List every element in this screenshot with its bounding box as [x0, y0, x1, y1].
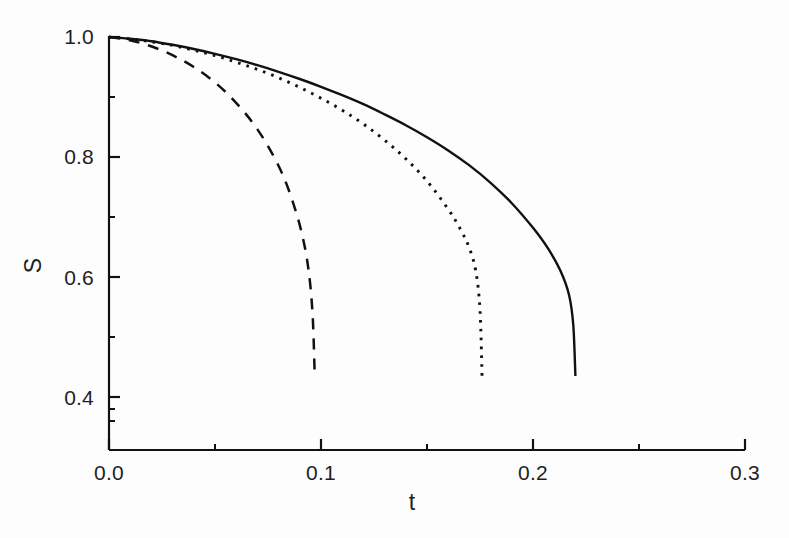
axes-group [109, 36, 745, 450]
x-tick-label-0.3: 0.3 [715, 461, 775, 485]
plot-canvas [0, 0, 789, 538]
x-tick-label-0.2: 0.2 [503, 461, 563, 485]
x-tick-label-0.0: 0.0 [79, 461, 139, 485]
curve-solid [109, 37, 575, 376]
y-tick-label-0.8: 0.8 [34, 145, 94, 169]
y-tick-label-1.0: 1.0 [34, 25, 94, 49]
y-tick-label-0.4: 0.4 [34, 386, 94, 410]
x-axis-title: t [397, 489, 427, 516]
x-tick-label-0.1: 0.1 [291, 461, 351, 485]
chart-figure: 1.0 0.8 0.6 0.4 0.0 0.1 0.2 0.3 S t [0, 0, 789, 538]
y-axis-title: S [20, 251, 47, 281]
curve-dashed [109, 37, 315, 373]
data-series-group [109, 37, 575, 379]
ticks-group [109, 37, 745, 450]
